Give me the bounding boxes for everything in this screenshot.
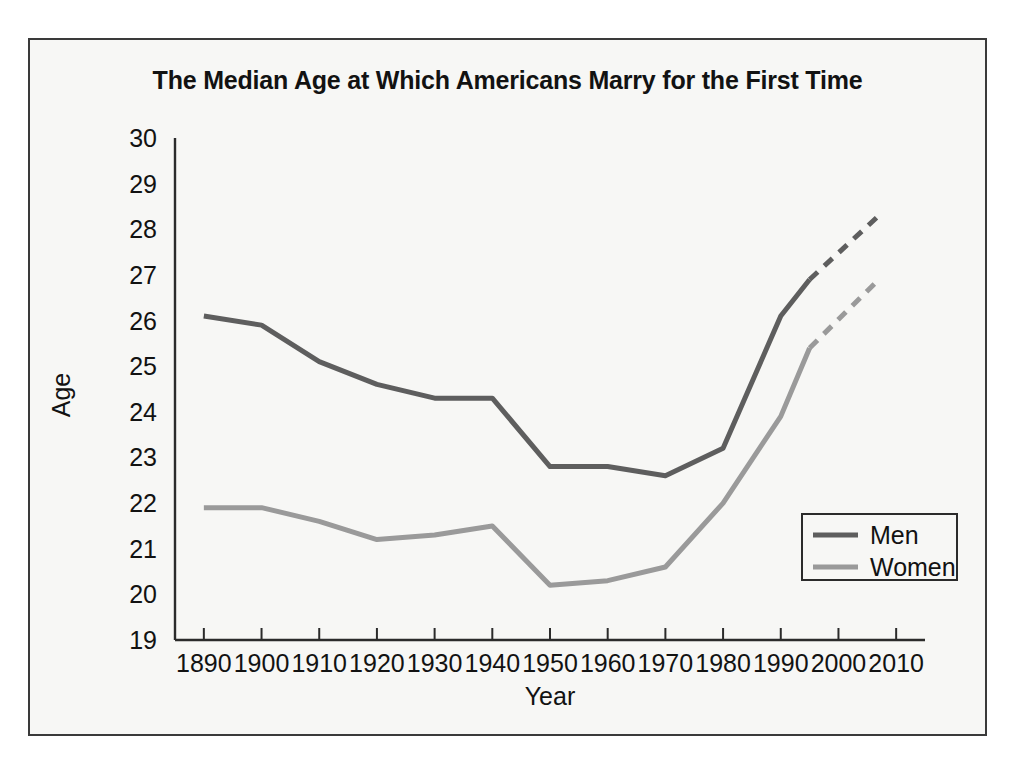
figure-frame: The Median Age at Which Americans Marry … bbox=[28, 38, 987, 736]
y-tick-23: 23 bbox=[129, 443, 157, 471]
series-line-women bbox=[204, 348, 810, 585]
y-tick-30: 30 bbox=[129, 124, 157, 152]
legend-label-men: Men bbox=[870, 521, 919, 549]
y-tick-28: 28 bbox=[129, 215, 157, 243]
x-tick-1950: 1950 bbox=[522, 649, 578, 677]
x-tick-1960: 1960 bbox=[580, 649, 636, 677]
y-tick-25: 25 bbox=[129, 352, 157, 380]
y-tick-21: 21 bbox=[129, 535, 157, 563]
y-tick-22: 22 bbox=[129, 489, 157, 517]
chart-legend[interactable]: Men Women bbox=[802, 514, 957, 581]
y-tick-24: 24 bbox=[129, 398, 157, 426]
y-tick-29: 29 bbox=[129, 170, 157, 198]
x-tick-1920: 1920 bbox=[349, 649, 405, 677]
x-tick-1970: 1970 bbox=[638, 649, 694, 677]
x-tick-1890: 1890 bbox=[176, 649, 232, 677]
x-tick-1990: 1990 bbox=[753, 649, 809, 677]
chart-plot-area: 192021222324252627282930 189019001910192… bbox=[30, 40, 985, 734]
y-tick-26: 26 bbox=[129, 307, 157, 335]
data-series-group bbox=[204, 216, 879, 586]
y-axis-title: Age bbox=[47, 373, 75, 417]
series-projection-men bbox=[810, 216, 879, 280]
y-tick-27: 27 bbox=[129, 261, 157, 289]
x-tick-1930: 1930 bbox=[407, 649, 463, 677]
legend-label-women: Women bbox=[870, 553, 956, 581]
y-tick-20: 20 bbox=[129, 580, 157, 608]
y-tick-19: 19 bbox=[129, 626, 157, 654]
x-tick-1900: 1900 bbox=[234, 649, 290, 677]
x-tick-1910: 1910 bbox=[291, 649, 347, 677]
x-axis-tick-labels: 1890190019101920193019401950196019701980… bbox=[176, 628, 924, 677]
x-tick-1980: 1980 bbox=[695, 649, 751, 677]
x-tick-2000: 2000 bbox=[811, 649, 867, 677]
series-projection-women bbox=[810, 279, 879, 347]
y-axis-tick-labels: 192021222324252627282930 bbox=[129, 124, 157, 654]
x-tick-2010: 2010 bbox=[868, 649, 924, 677]
x-tick-1940: 1940 bbox=[464, 649, 520, 677]
x-axis-title: Year bbox=[525, 682, 576, 710]
series-line-men bbox=[204, 279, 810, 475]
